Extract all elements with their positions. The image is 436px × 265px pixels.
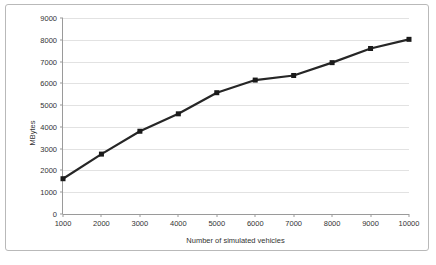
y-tick-label: 6000 bbox=[40, 79, 57, 88]
x-tick-label: 5000 bbox=[208, 219, 225, 228]
y-tick-label: 4000 bbox=[40, 122, 57, 131]
data-point-marker bbox=[368, 46, 373, 51]
data-point-marker bbox=[137, 129, 142, 134]
x-axis-title: Number of simulated vehicles bbox=[62, 236, 409, 245]
data-point-marker bbox=[253, 78, 258, 83]
x-tick-mark bbox=[63, 214, 64, 217]
data-point-marker bbox=[99, 152, 104, 157]
x-tick-label: 2000 bbox=[93, 219, 110, 228]
chart-figure: MBytes 010002000300040005000600070008000… bbox=[0, 0, 436, 265]
y-tick-label: 1000 bbox=[40, 188, 57, 197]
x-tick-label: 1000 bbox=[55, 219, 72, 228]
data-point-marker bbox=[330, 60, 335, 65]
data-point-marker bbox=[61, 176, 66, 181]
x-tick-mark bbox=[293, 214, 294, 217]
data-point-marker bbox=[176, 111, 181, 116]
x-tick-label: 3000 bbox=[132, 219, 149, 228]
data-point-marker bbox=[407, 37, 412, 42]
x-tick-label: 4000 bbox=[170, 219, 187, 228]
y-tick-label: 3000 bbox=[40, 144, 57, 153]
gridline bbox=[63, 214, 409, 215]
x-tick-mark bbox=[409, 214, 410, 217]
x-tick-mark bbox=[139, 214, 140, 217]
data-point-marker bbox=[291, 73, 296, 78]
y-tick-label: 7000 bbox=[40, 57, 57, 66]
plot-area: 0100020003000400050006000700080009000 10… bbox=[62, 18, 409, 214]
y-axis-title: MBytes bbox=[28, 120, 37, 145]
x-tick-mark bbox=[255, 214, 256, 217]
x-tick-mark bbox=[178, 214, 179, 217]
x-tick-mark bbox=[370, 214, 371, 217]
x-tick-mark bbox=[332, 214, 333, 217]
y-tick-label: 8000 bbox=[40, 35, 57, 44]
x-tick-label: 7000 bbox=[285, 219, 302, 228]
x-tick-label: 8000 bbox=[324, 219, 341, 228]
x-tick-mark bbox=[216, 214, 217, 217]
y-tick-label: 9000 bbox=[40, 14, 57, 23]
series-line bbox=[63, 39, 409, 178]
y-tick-label: 0 bbox=[53, 210, 57, 219]
y-tick-label: 2000 bbox=[40, 166, 57, 175]
data-point-marker bbox=[214, 90, 219, 95]
x-tick-label: 9000 bbox=[362, 219, 379, 228]
x-tick-label: 6000 bbox=[247, 219, 264, 228]
x-tick-mark bbox=[101, 214, 102, 217]
y-tick-label: 5000 bbox=[40, 101, 57, 110]
line-series bbox=[63, 18, 409, 214]
x-tick-label: 10000 bbox=[399, 219, 420, 228]
